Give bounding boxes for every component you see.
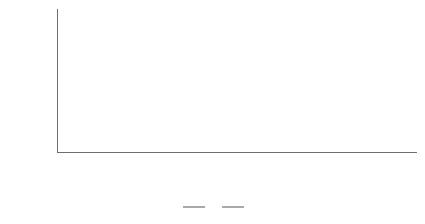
- chart-canvas: [57, 9, 417, 152]
- chart-legend: [0, 206, 425, 208]
- legend-swatch-information-received: [222, 206, 244, 208]
- chart-figure: [0, 0, 425, 224]
- legend-swatch-information-needed: [183, 206, 205, 208]
- y-axis-title: [12, 0, 26, 137]
- plot-area: [57, 9, 417, 152]
- legend-item-information-received: [222, 206, 252, 208]
- legend-item-information-needed: [183, 206, 213, 208]
